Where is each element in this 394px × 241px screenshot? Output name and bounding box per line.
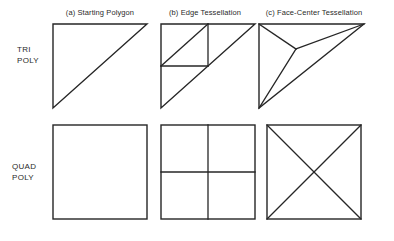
panel-quad-starting-polygon: [52, 124, 148, 220]
panel-quad-edge-tessellation: [160, 124, 256, 220]
center-spoke-top-right: [296, 24, 364, 49]
triangle-outline: [53, 24, 147, 108]
column-header-face-center-tessellation: (c) Face-Center Tessellation: [256, 8, 372, 17]
center-spoke-bottom-left: [259, 49, 296, 108]
tessellation-figure: (a) Starting Polygon (b) Edge Tessellati…: [0, 0, 394, 241]
row-label-tri-poly-line1: TRI: [17, 44, 39, 55]
center-spoke-top-left: [259, 24, 296, 49]
panel-tri-edge-tessellation: [160, 23, 256, 109]
triangle-outline: [259, 24, 364, 108]
panel-quad-face-center-tessellation: [266, 124, 362, 220]
row-label-tri-poly: TRI POLY: [17, 44, 39, 66]
row-label-quad-poly-line2: POLY: [12, 172, 36, 183]
panel-tri-face-center-tessellation: [258, 23, 368, 109]
row-label-tri-poly-line2: POLY: [17, 55, 39, 66]
column-header-starting-polygon: (a) Starting Polygon: [52, 8, 148, 17]
midpoint-line-diagonal: [161, 24, 208, 66]
row-label-quad-poly: QUAD POLY: [12, 161, 36, 183]
row-label-quad-poly-line1: QUAD: [12, 161, 36, 172]
column-header-edge-tessellation: (b) Edge Tessellation: [156, 8, 254, 17]
panel-tri-starting-polygon: [52, 23, 148, 109]
square-outline: [53, 125, 147, 219]
